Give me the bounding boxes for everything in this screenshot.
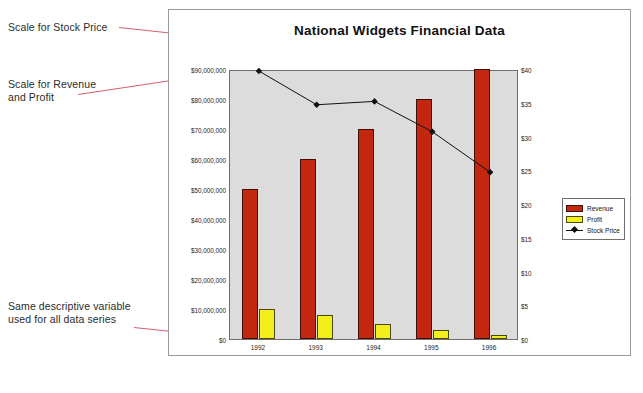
y-axis-left-revenue-profit: $0$10,000,000$20,000,000$30,000,000$40,0… [169,70,226,340]
annotation-scale-for-stock-price: Scale for Stock Price [8,21,108,34]
chart-legend: Revenue Profit Stock Price [562,198,625,240]
y-axis-right-tick: $20 [521,202,532,209]
stock-price-marker [371,98,378,105]
y-axis-right-tick: $10 [521,269,532,276]
legend-label-stock-price: Stock Price [587,227,620,234]
stock-price-marker [487,169,494,176]
x-axis-years: 19921993199419951996 [229,343,518,357]
legend-item-revenue: Revenue [566,203,620,213]
chart-title: National Widgets Financial Data [169,23,630,38]
y-axis-left-tick: $70,000,000 [191,127,226,134]
stock-price-marker [313,101,320,108]
x-axis-tick-label: 1994 [366,344,380,351]
chart-container: National Widgets Financial Data $0$10,00… [168,9,631,356]
y-axis-left-tick: $20,000,000 [191,277,226,284]
y-axis-right-tick: $5 [521,303,528,310]
legend-label-profit: Profit [587,216,602,223]
stock-price-marker [256,68,263,75]
stock-price-marker [429,128,436,135]
legend-item-stock-price: Stock Price [566,225,620,235]
y-axis-right-tick: $25 [521,168,532,175]
y-axis-right-tick: $0 [521,337,528,344]
x-axis-tick-label: 1995 [424,344,438,351]
y-axis-left-tick: $30,000,000 [191,247,226,254]
x-axis-tick-label: 1996 [482,344,496,351]
y-axis-right-tick: $35 [521,100,532,107]
stock-price-line [259,71,490,172]
y-axis-right-stock-price: $0$5$10$15$20$25$30$35$40 [521,70,561,340]
legend-item-profit: Profit [566,214,620,224]
y-axis-right-tick: $15 [521,235,532,242]
y-axis-right-tick: $40 [521,67,532,74]
y-axis-left-tick: $80,000,000 [191,97,226,104]
legend-swatch-profit-icon [566,216,583,223]
y-axis-right-tick: $30 [521,134,532,141]
legend-label-revenue: Revenue [587,205,613,212]
plot-inner [230,71,517,339]
y-axis-left-tick: $10,000,000 [191,307,226,314]
stock-price-line-series [230,71,519,341]
annotation-scale-for-revenue-and-profit: Scale for Revenue and Profit [8,78,96,104]
annotation-same-descriptive-variable: Same descriptive variable used for all d… [8,300,131,326]
y-axis-left-tick: $40,000,000 [191,217,226,224]
legend-swatch-revenue-icon [566,205,583,212]
y-axis-left-tick: $50,000,000 [191,187,226,194]
y-axis-left-tick: $60,000,000 [191,157,226,164]
plot-area [229,70,518,340]
y-axis-left-tick: $0 [219,337,226,344]
legend-swatch-stock-price-icon [566,227,583,234]
x-axis-tick-label: 1992 [251,344,265,351]
y-axis-left-tick: $90,000,000 [191,67,226,74]
x-axis-tick-label: 1993 [308,344,322,351]
